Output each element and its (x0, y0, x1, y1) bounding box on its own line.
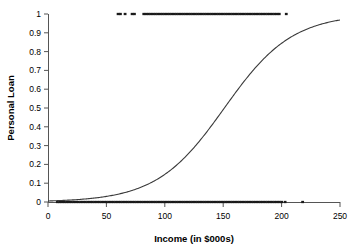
data-point (133, 13, 136, 15)
data-point (280, 201, 283, 203)
y-tick-label: 0.1 (29, 178, 41, 188)
y-tick-label: 0.3 (29, 141, 41, 151)
x-tick-label: 250 (333, 211, 347, 221)
x-axis-title: Income (in $000s) (154, 233, 234, 244)
y-tick-label: 0.9 (29, 28, 41, 38)
scatter-points-declined (56, 201, 304, 203)
y-tick-label: 0.7 (29, 65, 41, 75)
y-axis-title: Personal Loan (5, 75, 16, 141)
chart-background (0, 0, 364, 248)
y-tick-label: 0.2 (29, 159, 41, 169)
y-tick-label: 0.6 (29, 84, 41, 94)
data-point (119, 13, 122, 15)
x-tick-label: 100 (158, 211, 172, 221)
x-tick-label: 0 (46, 211, 51, 221)
y-tick-label: 1 (36, 9, 41, 19)
data-point (285, 13, 288, 15)
y-tick-label: 0.4 (29, 122, 41, 132)
data-point (124, 13, 127, 15)
data-point (278, 13, 281, 15)
x-tick-label: 50 (102, 211, 112, 221)
data-point (301, 201, 304, 203)
x-tick-label: 200 (275, 211, 289, 221)
y-tick-label: 0 (36, 197, 41, 207)
x-tick-label: 150 (216, 211, 230, 221)
logistic-regression-chart: 00.10.20.30.40.50.60.70.80.91 0501001502… (0, 0, 364, 248)
y-tick-label: 0.8 (29, 47, 41, 57)
y-tick-label: 0.5 (29, 103, 41, 113)
chart-canvas: 00.10.20.30.40.50.60.70.80.91 0501001502… (0, 0, 364, 248)
data-point (284, 201, 287, 203)
